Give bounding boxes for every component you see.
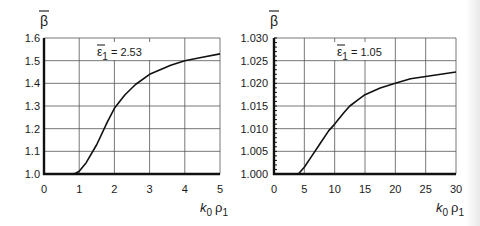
- rho-symbol: ρ: [451, 200, 458, 215]
- x-tick-label: 15: [359, 183, 371, 195]
- charts-figure: ε1= 2.531.01.11.21.31.41.51.6012345βk0ρ1…: [0, 0, 480, 226]
- y-tick-label: 1.3: [25, 100, 40, 112]
- y-tick-label: 1.010: [240, 123, 268, 135]
- x-tick-label: 0: [271, 183, 277, 195]
- x-tick-label: 30: [450, 183, 462, 195]
- y-axis-label: β: [270, 13, 278, 29]
- y-tick-label: 1.020: [240, 77, 268, 89]
- y-tick-label: 1.0: [25, 168, 40, 180]
- y-tick-label: 1.015: [240, 100, 268, 112]
- x-tick-label: 10: [329, 183, 341, 195]
- x-tick-label: 1: [76, 183, 82, 195]
- x-axis-label: k0ρ1: [436, 200, 464, 218]
- y-tick-label: 1.6: [25, 32, 40, 44]
- x-tick-label: 0: [41, 183, 47, 195]
- x-tick-label: 2: [111, 183, 117, 195]
- y-tick-label: 1.4: [25, 77, 40, 89]
- x-tick-label: 25: [420, 183, 432, 195]
- epsilon-subscript: 1: [342, 51, 348, 62]
- y-tick-label: 1.000: [240, 168, 268, 180]
- y-tick-label: 1.030: [240, 32, 268, 44]
- y-tick-label: 1.025: [240, 55, 268, 67]
- epsilon-subscript: 1: [102, 51, 108, 62]
- chart-right: ε1= 1.051.0001.0051.0101.0151.0201.0251.…: [240, 11, 464, 218]
- x-axis-label: k0ρ1: [200, 200, 228, 218]
- y-tick-label: 1.5: [25, 55, 40, 67]
- rho-subscript: 1: [222, 207, 228, 218]
- y-tick-label: 1.005: [240, 145, 268, 157]
- rho-subscript: 1: [458, 207, 464, 218]
- k-subscript: 0: [207, 207, 213, 218]
- x-tick-label: 3: [147, 183, 153, 195]
- annotation-value: = 2.53: [111, 46, 142, 58]
- data-curve: [298, 72, 456, 174]
- x-tick-label: 4: [182, 183, 188, 195]
- data-curve: [72, 54, 220, 174]
- k-subscript: 0: [443, 207, 449, 218]
- annotation-value: = 1.05: [351, 46, 382, 58]
- y-tick-label: 1.1: [25, 145, 40, 157]
- rho-symbol: ρ: [215, 200, 222, 215]
- x-tick-label: 5: [301, 183, 307, 195]
- y-axis-label: β: [40, 13, 48, 29]
- x-tick-label: 5: [217, 183, 223, 195]
- y-tick-label: 1.2: [25, 123, 40, 135]
- x-tick-label: 20: [389, 183, 401, 195]
- chart-left: ε1= 2.531.01.11.21.31.41.51.6012345βk0ρ1: [25, 11, 229, 218]
